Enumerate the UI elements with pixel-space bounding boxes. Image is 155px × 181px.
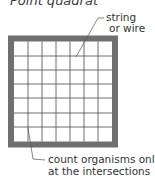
count-label-line1: count organisms only <box>48 154 155 165</box>
string-label-line2: or wire <box>109 23 145 34</box>
quadrat-frame <box>11 39 115 145</box>
string-grid <box>14 42 112 142</box>
count-label-line2: at the intersections <box>48 166 150 177</box>
